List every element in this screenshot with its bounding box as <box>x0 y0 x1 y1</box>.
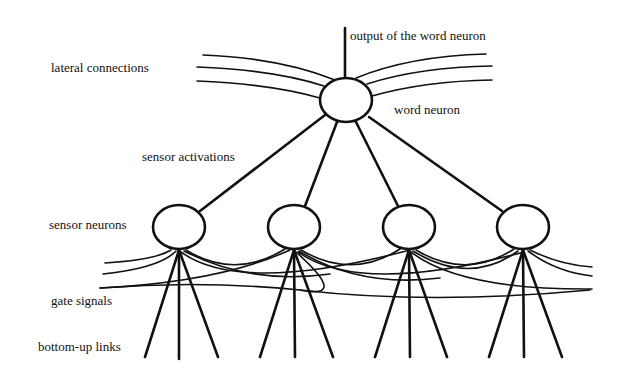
sensor-neuron-node <box>383 205 435 249</box>
gate-signals <box>100 249 592 298</box>
sensor-neurons-label: sensor neurons <box>49 218 127 231</box>
sensor-neuron-node <box>153 205 205 249</box>
sensor-activation-links <box>200 115 502 211</box>
bottom-up-links-label: bottom-up links <box>38 340 121 353</box>
sensor-neuron-node <box>268 205 320 249</box>
sensor-neuron-node <box>497 205 549 249</box>
word-neuron-node <box>320 78 372 122</box>
bottom-up-links <box>145 250 562 359</box>
sensor-activations-label: sensor activations <box>142 150 235 163</box>
gate-signals-label: gate signals <box>51 294 112 307</box>
output-label: output of the word neuron <box>350 29 486 42</box>
diagram-canvas <box>0 0 631 381</box>
lateral-connections-right <box>356 54 492 96</box>
word-neuron-label: word neuron <box>394 103 460 116</box>
lateral-connections-label: lateral connections <box>51 61 149 74</box>
lateral-connections-left <box>197 55 335 98</box>
neural-network-diagram: output of the word neuron lateral connec… <box>0 0 631 381</box>
